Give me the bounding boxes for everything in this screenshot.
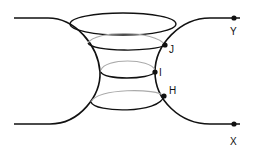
point-X [231, 121, 236, 126]
point-J [162, 42, 167, 47]
point-H [161, 93, 166, 98]
point-I [152, 69, 157, 74]
middle-ring-front [101, 72, 155, 78]
label-X: X [230, 136, 237, 147]
point-Y [231, 15, 236, 20]
label-H: H [169, 85, 176, 96]
label-I: I [159, 67, 162, 78]
left-profile-curve [14, 18, 100, 124]
right-profile-curve [155, 18, 240, 124]
top-ellipse [70, 13, 176, 35]
label-J: J [169, 44, 174, 55]
lower-ring-back [91, 91, 164, 102]
wormhole-surface-diagram: J I H Y X [0, 0, 256, 154]
lower-ring-front [91, 96, 164, 110]
middle-ring-back [101, 61, 155, 70]
upper-ring-front [88, 43, 165, 50]
label-Y: Y [230, 26, 237, 37]
